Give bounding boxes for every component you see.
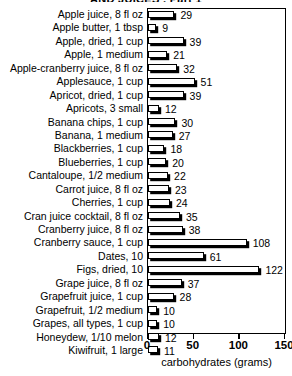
bar-row: 61 [148, 251, 285, 264]
bar-row: 24 [148, 197, 285, 210]
bar-row: 28 [148, 291, 285, 304]
bar-value-label: 10 [163, 318, 175, 330]
bar [148, 131, 173, 138]
bar-value-label: 61 [210, 251, 222, 263]
bar-value-label: 32 [183, 63, 195, 75]
bar [148, 91, 184, 98]
category-label: Apple, dried, 1 cup [0, 35, 146, 48]
bar [148, 185, 169, 192]
bar-row: 122 [148, 264, 285, 277]
bar-value-label: 38 [189, 224, 201, 236]
category-label: Figs, dried, 10 [0, 263, 146, 276]
bar-value-label: 35 [186, 211, 198, 223]
category-label: Cranberry sauce, 1 cup [0, 236, 146, 249]
category-label: Apple-cranberry juice, 8 fl oz [0, 62, 146, 75]
bar-row: 22 [148, 170, 285, 183]
bar-value-label: 10 [163, 305, 175, 317]
bar-row: 37 [148, 278, 285, 291]
bar-row: 108 [148, 237, 285, 250]
bar-value-label: 30 [181, 117, 193, 129]
bar-row: 39 [148, 36, 285, 49]
bar-value-label: 21 [173, 49, 185, 61]
category-label: Grapefruit, 1/2 medium [0, 304, 146, 317]
bar [148, 226, 183, 233]
bar [148, 24, 156, 31]
category-label: Grape juice, 8 fl oz [0, 277, 146, 290]
bar-row: 9 [148, 22, 285, 35]
bar [148, 266, 259, 273]
category-label: Cran juice cocktail, 8 fl oz [0, 210, 146, 223]
category-label: Banana chips, 1 cup [0, 116, 146, 129]
bar [148, 172, 168, 179]
category-label: Carrot juice, 8 fl oz [0, 183, 146, 196]
category-label: Apricots, 3 small [0, 102, 146, 115]
bar-value-label: 12 [165, 103, 177, 115]
bar [148, 118, 175, 125]
bar-row: 30 [148, 117, 285, 130]
bar-row: 35 [148, 211, 285, 224]
category-label: Apple, 1 medium [0, 48, 146, 61]
bar [148, 252, 204, 259]
bar-value-label: 122 [265, 264, 283, 276]
bar [148, 105, 159, 112]
bar [148, 11, 174, 18]
bar-row: 23 [148, 184, 285, 197]
bar [148, 158, 166, 165]
category-label: Grapefruit juice, 1 cup [0, 290, 146, 303]
category-label: Cantaloupe, 1/2 medium [0, 169, 146, 182]
bar-value-label: 108 [253, 237, 271, 249]
bar-row: 27 [148, 130, 285, 143]
bar-row: 29 [148, 9, 285, 22]
bar [148, 199, 170, 206]
bar [148, 306, 157, 313]
bar-value-label: 39 [190, 90, 202, 102]
bar-row: 21 [148, 49, 285, 62]
bar [148, 239, 247, 246]
bar-value-label: 29 [180, 9, 192, 21]
bar [148, 64, 177, 71]
bar-value-label: 20 [172, 157, 184, 169]
bar-row: 10 [148, 318, 285, 331]
bar-rows: 2993921325139123027182022232435381086112… [148, 9, 285, 358]
category-label-column: Apple juice, 8 fl ozApple butter, 1 tbsp… [0, 8, 146, 357]
bar-value-label: 23 [175, 184, 187, 196]
category-label: Dates, 10 [0, 250, 146, 263]
bar [148, 293, 174, 300]
category-label: Blackberries, 1 cup [0, 142, 146, 155]
bar [148, 279, 182, 286]
bar-value-label: 24 [176, 197, 188, 209]
category-label: Cherries, 1 cup [0, 196, 146, 209]
bar [148, 320, 157, 327]
bar-value-label: 28 [180, 291, 192, 303]
x-axis-tick-label: 50 [186, 339, 199, 351]
category-label: Cranberry juice, 8 fl oz [0, 223, 146, 236]
plot-area: 2993921325139123027182022232435381086112… [147, 8, 286, 334]
category-label: Blueberries, 1 cup [0, 156, 146, 169]
bar-value-label: 51 [201, 76, 213, 88]
bar-value-label: 27 [179, 130, 191, 142]
category-label: Applesauce, 1 cup [0, 75, 146, 88]
category-label: Banana, 1 medium [0, 129, 146, 142]
bar-value-label: 9 [162, 22, 168, 34]
bar [148, 212, 180, 219]
x-axis-tick-label: 0 [144, 339, 150, 351]
x-axis-tick-labels: 050100150 [100, 339, 292, 353]
bar [148, 78, 195, 85]
bar-row: 20 [148, 157, 285, 170]
bar-row: 18 [148, 143, 285, 156]
category-label: Apple juice, 8 fl oz [0, 8, 146, 21]
category-label: Apricot, dried, 1 cup [0, 89, 146, 102]
bar-value-label: 18 [170, 143, 182, 155]
bar-row: 10 [148, 305, 285, 318]
bar-row: 12 [148, 103, 285, 116]
bar-row: 51 [148, 76, 285, 89]
bar-row: 32 [148, 63, 285, 76]
bar-value-label: 37 [188, 278, 200, 290]
bar [148, 51, 167, 58]
bar-value-label: 39 [190, 36, 202, 48]
bar [148, 37, 184, 44]
x-axis-tick-label: 150 [274, 339, 292, 351]
bar-row: 39 [148, 90, 285, 103]
bar-chart: AND JUICES , Part 1 Apple juice, 8 fl oz… [0, 0, 292, 376]
bar-row: 38 [148, 224, 285, 237]
